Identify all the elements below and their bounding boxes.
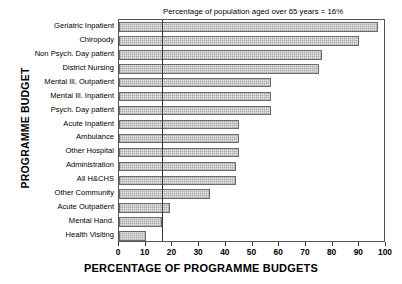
category-label: Administration (18, 161, 114, 169)
x-tick-label: 40 (210, 247, 240, 257)
category-label: Acute Outpatient (18, 203, 114, 211)
x-tick-label: 30 (183, 247, 213, 257)
category-label: Mental Ill. Inpatient (18, 92, 114, 100)
x-tick-label: 10 (130, 247, 160, 257)
x-axis-ticks: 0102030405060708090100 (118, 242, 385, 258)
x-tick-label: 70 (290, 247, 320, 257)
reference-line-16-percent (162, 20, 163, 241)
bar (119, 50, 322, 60)
category-label: Ambulance (18, 133, 114, 141)
bar (119, 120, 239, 130)
bar (119, 22, 378, 32)
x-tick-mark (332, 242, 333, 246)
bar-chart: PROGRAMME BUDGET Geriatric InpatientChir… (0, 0, 402, 284)
bar (119, 189, 210, 199)
x-tick-label: 60 (263, 247, 293, 257)
category-label: Health Visiting (18, 231, 114, 239)
x-tick-label: 20 (156, 247, 186, 257)
bars-container (119, 20, 384, 241)
x-tick-label: 0 (103, 247, 133, 257)
bar (119, 231, 146, 241)
category-label: Chiropody (18, 36, 114, 44)
x-tick-mark (198, 242, 199, 246)
x-axis-title: PERCENTAGE OF PROGRAMME BUDGETS (0, 262, 402, 274)
bar (119, 64, 319, 74)
x-tick-mark (171, 242, 172, 246)
category-axis-labels: Geriatric InpatientChiropodyNon Psych. D… (18, 19, 116, 242)
bar (119, 217, 162, 227)
bar (119, 176, 236, 186)
category-label: Non Psych. Day patient (18, 50, 114, 58)
category-label: Psych. Day patient (18, 106, 114, 114)
x-tick-label: 90 (343, 247, 373, 257)
category-label: Other Community (18, 189, 114, 197)
category-label: Other Hospital (18, 147, 114, 155)
bar (119, 36, 359, 46)
x-tick-mark (118, 242, 119, 246)
reference-line-annotation: Percentage of population aged over 65 ye… (163, 7, 343, 16)
x-tick-mark (252, 242, 253, 246)
category-label: Mental Ill. Outpatient (18, 78, 114, 86)
x-tick-mark (385, 242, 386, 246)
plot-area (118, 19, 385, 242)
x-tick-label: 50 (237, 247, 267, 257)
category-label: All H&CHS (18, 175, 114, 183)
category-label: District Nursing (18, 64, 114, 72)
x-tick-mark (225, 242, 226, 246)
bar (119, 148, 239, 158)
x-tick-mark (305, 242, 306, 246)
x-tick-label: 100 (370, 247, 400, 257)
bar (119, 134, 239, 144)
bar (119, 162, 236, 172)
x-tick-mark (278, 242, 279, 246)
bar (119, 106, 271, 116)
bar (119, 92, 271, 102)
x-tick-mark (145, 242, 146, 246)
category-label: Mental Hand. (18, 217, 114, 225)
x-tick-label: 80 (317, 247, 347, 257)
category-label: Geriatric Inpatient (18, 22, 114, 30)
category-label: Acute Inpatient (18, 120, 114, 128)
bar (119, 78, 271, 88)
x-tick-mark (358, 242, 359, 246)
